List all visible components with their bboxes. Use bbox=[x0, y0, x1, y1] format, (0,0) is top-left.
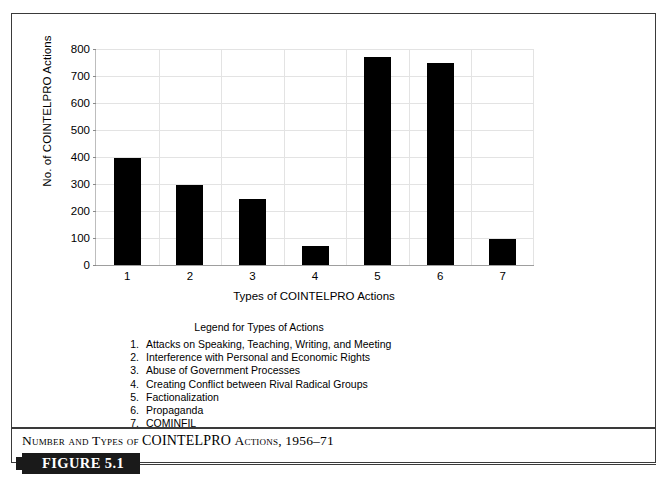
legend-item-label: Interference with Personal and Economic … bbox=[146, 351, 370, 364]
gridline-horizontal bbox=[96, 238, 534, 239]
legend-item-number: 6. bbox=[119, 404, 146, 417]
legend-item-label: Abuse of Government Processes bbox=[146, 364, 300, 377]
legend-list: 1.Attacks on Speaking, Teaching, Writing… bbox=[119, 338, 555, 430]
y-tick-mark bbox=[93, 103, 96, 104]
y-tick-mark bbox=[93, 211, 96, 212]
caption-prefix: Number and Types of bbox=[22, 433, 139, 448]
y-tick-label: 100 bbox=[71, 232, 90, 244]
y-tick-label: 200 bbox=[71, 205, 90, 217]
y-tick-mark bbox=[93, 76, 96, 77]
legend-item-label: Creating Conflict between Rival Radical … bbox=[146, 378, 368, 391]
gridline-vertical bbox=[284, 49, 285, 265]
bar bbox=[176, 185, 203, 265]
legend-item: 2.Interference with Personal and Economi… bbox=[119, 351, 555, 364]
x-tick-label: 7 bbox=[500, 270, 506, 282]
y-tick-label: 500 bbox=[71, 124, 90, 136]
x-tick-label: 3 bbox=[249, 270, 255, 282]
figure-caption: Number and Types of COINTELPRO Actions, … bbox=[22, 433, 334, 449]
legend-item-number: 5. bbox=[119, 391, 146, 404]
x-tick-label: 1 bbox=[124, 270, 130, 282]
legend-item-number: 3. bbox=[119, 364, 146, 377]
legend-item-number: 1. bbox=[119, 338, 146, 351]
legend-item-label: Factionalization bbox=[146, 391, 219, 404]
y-tick-mark bbox=[93, 238, 96, 239]
caption-divider bbox=[11, 427, 656, 429]
gridline-vertical bbox=[533, 49, 534, 265]
legend-item: 1.Attacks on Speaking, Teaching, Writing… bbox=[119, 338, 555, 351]
y-tick-mark bbox=[93, 184, 96, 185]
gridline-horizontal bbox=[96, 130, 534, 131]
gridline-vertical bbox=[409, 49, 410, 265]
legend-item-number: 2. bbox=[119, 351, 146, 364]
legend-item-number: 4. bbox=[119, 378, 146, 391]
y-tick-label: 400 bbox=[71, 151, 90, 163]
chart-legend: Legend for Types of Actions 1.Attacks on… bbox=[95, 321, 555, 430]
gridline-horizontal bbox=[96, 49, 534, 50]
y-tick-label: 700 bbox=[71, 70, 90, 82]
figure-tag-label: FIGURE 5.1 bbox=[22, 453, 140, 474]
gridline-vertical bbox=[221, 49, 222, 265]
bar bbox=[364, 57, 391, 265]
y-tick-label: 0 bbox=[84, 259, 90, 271]
legend-item: 5.Factionalization bbox=[119, 391, 555, 404]
y-tick-label: 300 bbox=[71, 178, 90, 190]
y-axis-title: No. of COINTELPRO Actions bbox=[41, 11, 53, 211]
legend-item: 4.Creating Conflict between Rival Radica… bbox=[119, 378, 555, 391]
legend-item: 6.Propaganda bbox=[119, 404, 555, 417]
x-tick-label: 6 bbox=[437, 270, 443, 282]
caption-acronym: COINTELPRO bbox=[142, 433, 231, 448]
x-tick-label: 2 bbox=[187, 270, 193, 282]
x-axis-title: Types of COINTELPRO Actions bbox=[95, 290, 533, 302]
gridline-vertical bbox=[346, 49, 347, 265]
x-tick-label: 4 bbox=[312, 270, 318, 282]
y-tick-mark bbox=[93, 265, 96, 266]
y-tick-mark bbox=[93, 49, 96, 50]
caption-suffix: Actions, 1956–71 bbox=[234, 433, 333, 448]
chart-area: No. of COINTELPRO Actions 01002003004005… bbox=[11, 13, 656, 423]
figure-container: No. of COINTELPRO Actions 01002003004005… bbox=[0, 0, 669, 478]
x-tick-label: 5 bbox=[374, 270, 380, 282]
gridline-vertical bbox=[471, 49, 472, 265]
bar bbox=[427, 63, 454, 265]
bar bbox=[489, 239, 516, 265]
plot-area: 01002003004005006007008001234567 bbox=[95, 49, 534, 266]
bar bbox=[302, 246, 329, 265]
gridline-horizontal bbox=[96, 157, 534, 158]
y-tick-label: 800 bbox=[71, 43, 90, 55]
legend-title: Legend for Types of Actions bbox=[109, 321, 409, 333]
y-tick-mark bbox=[93, 157, 96, 158]
gridline-horizontal bbox=[96, 103, 534, 104]
legend-item-label: Attacks on Speaking, Teaching, Writing, … bbox=[146, 338, 391, 351]
legend-item-label: Propaganda bbox=[146, 404, 203, 417]
legend-item: 3.Abuse of Government Processes bbox=[119, 364, 555, 377]
gridline-horizontal bbox=[96, 184, 534, 185]
gridline-vertical bbox=[159, 49, 160, 265]
bar bbox=[114, 158, 141, 265]
bar bbox=[239, 199, 266, 265]
y-tick-label: 600 bbox=[71, 97, 90, 109]
gridline-horizontal bbox=[96, 211, 534, 212]
gridline-horizontal bbox=[96, 76, 534, 77]
y-tick-mark bbox=[93, 130, 96, 131]
